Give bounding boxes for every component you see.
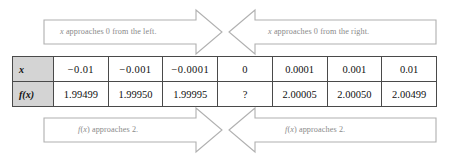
table-cell-x-5: 0.001 [327, 57, 382, 82]
top-left-arrow-label: x approaches 0 from the left. [60, 28, 157, 36]
arrow-right-bottom-icon [0, 106, 451, 154]
bottom-left-label-rest: approaches 2. [90, 125, 138, 134]
top-right-label-rest: approaches 0 from the right. [272, 27, 369, 36]
table-cell-fx-0: 1.99499 [54, 82, 109, 107]
bottom-arrow-band: f(x) approaches 2. f(x) approaches 2. [0, 106, 451, 154]
table-cell-fx-3: ? [218, 82, 273, 107]
top-arrow-band: x approaches 0 from the left. x approach… [0, 8, 451, 56]
bottom-left-arrow-label: f(x) approaches 2. [78, 126, 138, 134]
table-cell-x-3: 0 [218, 57, 273, 82]
bottom-right-arrow-label: f(x) approaches 2. [285, 126, 345, 134]
table-cell-x-1: −0.001 [108, 57, 163, 82]
table-cell-x-4: 0.0001 [272, 57, 327, 82]
table-cell-fx-2: 1.99995 [163, 82, 218, 107]
table-cell-x-0: −0.01 [54, 57, 109, 82]
table-cell-x-2: −0.0001 [163, 57, 218, 82]
table-cell-fx-5: 2.00050 [327, 82, 382, 107]
bottom-arrow-group: f(x) approaches 2. f(x) approaches 2. [0, 106, 451, 154]
limit-values-table: x −0.01 −0.001 −0.0001 0 0.0001 0.001 0.… [12, 56, 437, 107]
table-cell-x-6: 0.01 [382, 57, 437, 82]
table-cell-fx-4: 2.00005 [272, 82, 327, 107]
bottom-right-label-rest: approaches 2. [297, 125, 345, 134]
table-cell-fx-1: 1.99950 [108, 82, 163, 107]
table-cell-fx-6: 2.00499 [382, 82, 437, 107]
table-row-x: x −0.01 −0.001 −0.0001 0 0.0001 0.001 0.… [13, 57, 437, 82]
row-header-x: x [13, 57, 54, 82]
table-row-fx: f(x) 1.99499 1.99950 1.99995 ? 2.00005 2… [13, 82, 437, 107]
row-header-fx: f(x) [13, 82, 54, 107]
top-left-arrow-group: x approaches 0 from the left. x approach… [0, 8, 451, 56]
top-left-label-rest: approaches 0 from the left. [64, 27, 157, 36]
top-right-arrow-label: x approaches 0 from the right. [268, 28, 369, 36]
row-header-fx-close: ) [31, 89, 34, 100]
limit-values-table-wrapper: x −0.01 −0.001 −0.0001 0 0.0001 0.001 0.… [12, 56, 437, 104]
